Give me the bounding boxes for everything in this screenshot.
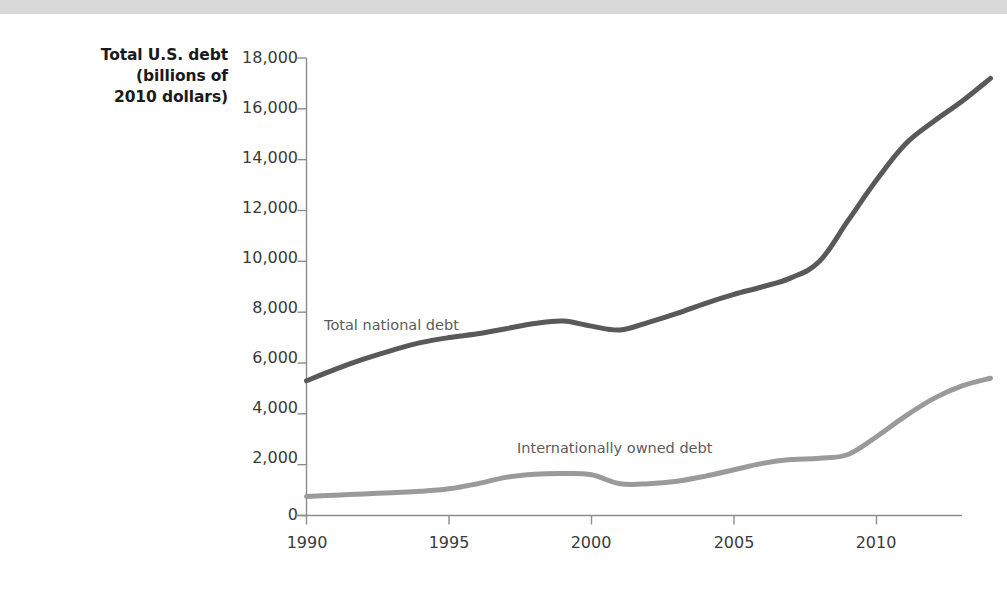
series-line-internationally-owned-debt <box>307 378 991 496</box>
plot-area <box>0 14 1007 597</box>
page-top-band <box>0 0 1007 14</box>
series-line-total-national-debt <box>307 78 991 380</box>
y-axis-ticks <box>298 58 307 516</box>
x-axis-ticks <box>307 516 877 525</box>
chart-figure: Total U.S. debt (billions of 2010 dollar… <box>0 14 1007 597</box>
